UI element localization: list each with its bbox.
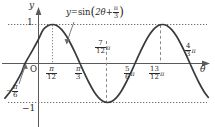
y-tick-label-negative-one: −1	[22, 104, 35, 113]
x-label-pi-over-12-denominator: 12	[46, 73, 57, 81]
x-label-neg-pi-over-6-numerator: π	[12, 84, 19, 91]
x-label-seven-twelfths-pi-numerator: 7	[95, 40, 106, 47]
x-label-seven-twelfths-pi-denominator: 12	[95, 47, 106, 55]
equation-label: y=sin(2θ+ π 3 )	[66, 5, 124, 20]
x-label-pi-over-12-numerator: π	[46, 66, 57, 73]
equation-function-name: sin	[78, 7, 91, 17]
x-label-pi-over-3-denominator: 3	[75, 73, 82, 81]
x-label-four-thirds-pi-suffix: π	[191, 47, 195, 55]
x-label-thirteen-twelfths-pi-numerator: 13	[149, 66, 160, 73]
equation-equals: =	[71, 7, 78, 17]
origin-label: O	[30, 65, 37, 74]
x-label-thirteen-twelfths-pi-fraction: 13 12	[149, 66, 160, 82]
x-label-pi-over-12: π 12	[46, 66, 57, 82]
x-label-seven-twelfths-pi-fraction: 7 12	[95, 40, 106, 56]
x-label-neg-pi-over-6-fraction: π 6	[12, 84, 19, 100]
equation-close-paren: )	[119, 5, 124, 19]
x-label-thirteen-twelfths-pi-denominator: 12	[149, 73, 160, 81]
x-label-pi-over-3-fraction: π 3	[75, 66, 82, 82]
x-label-neg-pi-over-6-denominator: 6	[12, 91, 19, 99]
x-label-neg-pi-over-6: − π 6	[6, 84, 18, 100]
equation-argument-term: 2θ	[95, 7, 106, 17]
x-axis-label: θ	[200, 65, 205, 74]
x-label-five-sixths-pi-suffix: π	[130, 70, 134, 78]
x-label-thirteen-twelfths-pi-suffix: π	[160, 70, 164, 78]
x-label-five-sixths-pi: 5 6 π	[124, 66, 135, 82]
equation-argument-plus: +	[106, 7, 113, 17]
x-label-pi-over-12-fraction: π 12	[46, 66, 57, 82]
x-label-four-thirds-pi: 4 3 π	[185, 43, 196, 59]
x-label-pi-over-3: π 3	[75, 66, 82, 82]
y-axis-arrowhead	[36, 7, 42, 15]
y-axis-label: y	[29, 1, 34, 10]
x-label-pi-over-3-numerator: π	[75, 66, 82, 73]
x-label-seven-twelfths-pi-suffix: π	[106, 44, 110, 52]
y-tick-label-one: 1	[27, 18, 33, 27]
x-label-thirteen-twelfths-pi: 13 12 π	[149, 66, 164, 82]
trig-graph-figure: y θ O 1 −1 y=sin(2θ+ π 3 ) − π 6 π 12 π …	[0, 0, 215, 127]
x-label-seven-twelfths-pi: 7 12 π	[95, 40, 110, 56]
